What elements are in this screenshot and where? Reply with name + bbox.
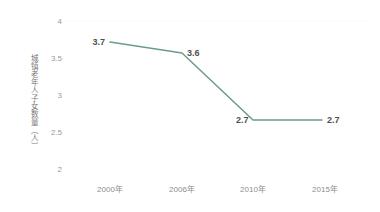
data-line (110, 42, 322, 120)
x-tick-label: 2000年 (80, 183, 140, 194)
x-tick-label: 2010年 (223, 183, 283, 194)
x-tick-label: 2006年 (152, 183, 212, 194)
data-label: 2.7 (327, 115, 340, 125)
data-label: 3.6 (187, 48, 200, 58)
x-tick-label: 2015年 (295, 183, 355, 194)
data-label: 3.7 (92, 37, 105, 47)
line-chart: 城镇老年人子女数量（人） 4 3.5 3 2.5 2 3.7 3.6 2.7 2… (0, 0, 380, 212)
plot-area (0, 0, 380, 212)
data-label: 2.7 (236, 115, 249, 125)
